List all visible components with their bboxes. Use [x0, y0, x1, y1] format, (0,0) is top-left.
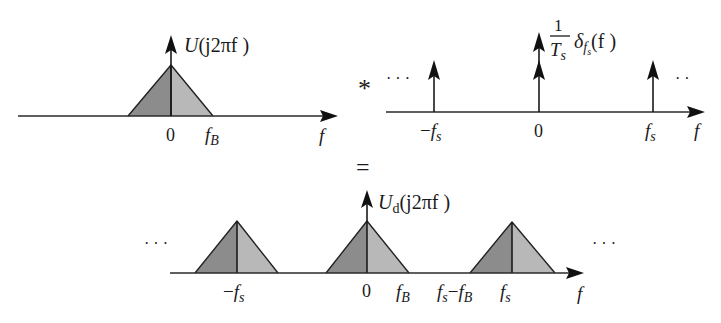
- tick-label-fs-minus-fb: fs−fB: [437, 281, 473, 305]
- delta-function: δfs(f ): [574, 30, 616, 57]
- coefficient-numerator: 1: [554, 16, 563, 35]
- tick-label-zero: 0: [534, 121, 543, 141]
- tick-label-zero: 0: [166, 125, 175, 145]
- ellipsis-right: · · ·: [592, 235, 616, 252]
- impulse-train-title: 1 Ts δfs(f ): [550, 16, 616, 63]
- equals-operator: =: [356, 154, 370, 180]
- axis-label-f: f: [319, 125, 327, 146]
- sampled-spectrum-panel: Ud(j2πf ) · · · · · · −fs 0 fB fs−fB fs …: [144, 190, 616, 305]
- sampled-spectrum-title: Ud(j2πf ): [378, 191, 450, 216]
- coefficient-denominator: Ts: [550, 39, 567, 63]
- replica-triangle-minus-fs: [195, 221, 278, 273]
- replica-triangle-zero: [326, 221, 409, 273]
- baseband-spectrum-panel: U(j2πf ) 0 fB f: [18, 34, 338, 148]
- sampling-spectrum-diagram: U(j2πf ) 0 fB f * · · · · · 1 Ts: [0, 0, 721, 323]
- convolution-operator: *: [358, 74, 371, 103]
- tick-label-zero: 0: [362, 281, 371, 301]
- impulse-train-panel: · · · · · 1 Ts δfs(f ) −fs 0 fs f: [386, 16, 705, 144]
- replica-triangle-plus-fs: [470, 222, 555, 273]
- tick-label-fs: fs: [500, 281, 511, 305]
- tick-label-fs: fs: [645, 120, 656, 144]
- tick-label-fb: fB: [396, 281, 410, 305]
- ellipsis-left: · · ·: [144, 235, 168, 252]
- spectrum-title: U(j2πf ): [184, 34, 249, 57]
- ellipsis-left: · · ·: [386, 70, 410, 87]
- tick-label-fb: fB: [205, 124, 219, 148]
- tick-label-minus-fs: −fs: [420, 120, 442, 144]
- ellipsis-right: · ·: [675, 70, 690, 87]
- impulse-axis-label-f: f: [694, 120, 702, 141]
- sampled-axis-label-f: f: [577, 283, 585, 304]
- tick-label-minus-fs: −fs: [223, 281, 245, 305]
